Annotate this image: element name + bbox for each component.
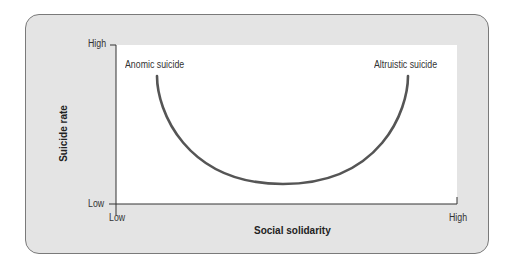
- u-curve: [157, 76, 408, 184]
- annotation-altruistic-suicide: Altruistic suicide: [374, 59, 437, 70]
- y-axis-title: Suicide rate: [58, 101, 69, 167]
- x-tick-high-label: High: [449, 212, 467, 223]
- x-tick-low-label: Low: [109, 212, 125, 223]
- y-tick-low-label: Low: [88, 198, 104, 209]
- x-axis-title: Social solidarity: [254, 225, 331, 236]
- annotation-anomic-suicide: Anomic suicide: [125, 59, 184, 70]
- y-tick-high-label: High: [88, 38, 106, 49]
